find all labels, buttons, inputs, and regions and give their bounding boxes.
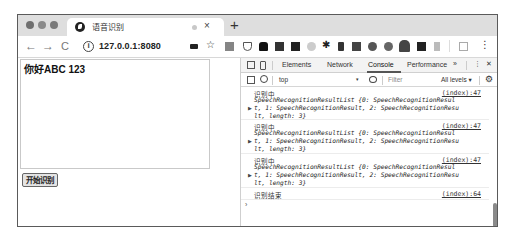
console-log-entry: 识别中 (index):47 SpeechRecognitionResultLi… <box>241 121 489 154</box>
extension-10-icon[interactable] <box>399 40 410 52</box>
minimize-window-button[interactable] <box>38 21 46 29</box>
back-button[interactable]: ← <box>25 39 37 53</box>
tab-recording-indicator-icon <box>192 25 197 30</box>
filter-divider <box>272 76 273 85</box>
browser-tab[interactable]: 语音识别 × <box>67 18 224 37</box>
tab-elements[interactable]: Elements <box>282 61 311 68</box>
log-object-line[interactable]: lt, length: 3} <box>254 112 306 120</box>
start-recognition-button[interactable]: 开始识别 <box>22 173 58 187</box>
sidebar-toggle-icon[interactable] <box>247 76 255 84</box>
camera-icon[interactable] <box>190 44 198 49</box>
console-log-entry: 识别中 (index):47 SpeechRecognitionResultLi… <box>241 155 489 188</box>
devtools-close-button[interactable]: ✕ <box>486 60 492 68</box>
star-icon[interactable]: ☆ <box>206 39 215 50</box>
log-object-line[interactable]: lt, length: 3} <box>254 179 306 187</box>
more-tabs-button[interactable]: » <box>453 60 457 67</box>
extension-9-icon[interactable] <box>384 42 393 51</box>
toolbar-divider <box>449 40 450 52</box>
extension-6-icon[interactable] <box>338 42 344 51</box>
tabbar-divider <box>272 61 273 70</box>
extensions-puzzle-icon[interactable] <box>459 42 468 51</box>
qr-icon[interactable] <box>225 42 234 51</box>
tab-performance[interactable]: Performance <box>407 61 447 68</box>
tabbar-divider-2 <box>466 61 467 70</box>
extension-8-icon[interactable] <box>368 42 377 51</box>
filter-input[interactable]: Filter <box>388 76 402 83</box>
console-settings-gear-icon[interactable]: ⚙ <box>485 74 493 84</box>
extension-11-icon[interactable] <box>417 42 426 51</box>
extension-3-icon[interactable] <box>291 42 300 51</box>
devtools-tabbar: Elements Network Console Performance » ⋮… <box>241 58 498 73</box>
site-info-icon[interactable]: i <box>83 41 94 52</box>
globe-icon <box>75 22 85 32</box>
tab-network[interactable]: Network <box>327 61 353 68</box>
extension-2-icon[interactable] <box>275 42 284 51</box>
tab-close-button[interactable]: × <box>204 20 210 31</box>
menu-kebab-icon[interactable]: ⋮ <box>480 39 490 50</box>
close-window-button[interactable] <box>26 21 34 29</box>
log-object-line[interactable]: lt, length: 3} <box>254 145 306 153</box>
console-scrollbar[interactable] <box>493 203 497 227</box>
page-content: 你好ABC 123 开始识别 <box>18 58 240 227</box>
tab-title: 语音识别 <box>92 21 124 32</box>
console-filter-bar: top ▾ Filter All levels ▾ ⚙ <box>241 73 498 87</box>
extension-1-icon[interactable] <box>259 42 268 51</box>
extension-7-icon[interactable] <box>352 42 361 51</box>
tab-console[interactable]: Console <box>368 61 394 68</box>
console-log-entry: 识别结束 (index):64 <box>241 189 489 200</box>
inspect-element-icon[interactable] <box>247 61 255 69</box>
expand-triangle-icon[interactable]: ▶ <box>248 105 252 111</box>
devtools-menu-button[interactable]: ⋮ <box>474 60 481 68</box>
filter-divider-3 <box>479 76 480 85</box>
reload-button[interactable]: C <box>61 40 69 52</box>
url-text[interactable]: 127.0.0.1:8080 <box>99 41 161 51</box>
result-textarea[interactable]: 你好ABC 123 <box>20 59 210 169</box>
new-tab-button[interactable]: + <box>230 17 239 32</box>
context-selector[interactable]: top <box>279 76 288 83</box>
devtools-panel: Elements Network Console Performance » ⋮… <box>240 58 498 227</box>
log-levels-dropdown[interactable]: All levels ▾ <box>441 76 472 84</box>
maximize-window-button[interactable] <box>50 21 58 29</box>
log-source-link[interactable]: (index):64 <box>442 190 481 198</box>
live-expression-eye-icon[interactable] <box>369 76 377 83</box>
pocket-icon[interactable] <box>243 42 252 51</box>
expand-triangle-icon[interactable]: ▶ <box>248 138 252 144</box>
extension-5-icon[interactable]: ✱ <box>322 39 330 50</box>
extension-12-icon[interactable] <box>434 42 440 51</box>
clear-console-icon[interactable] <box>260 75 268 83</box>
console-output: 识别中 (index):47 SpeechRecognitionResultLi… <box>241 88 498 227</box>
tab-strip: 语音识别 × + <box>18 15 497 36</box>
browser-toolbar: ← → C i 127.0.0.1:8080 ☆ ✱ ⋮ <box>18 36 497 58</box>
expand-triangle-icon[interactable]: ▶ <box>248 172 252 178</box>
context-dropdown-icon[interactable]: ▾ <box>356 76 359 82</box>
console-prompt[interactable]: › <box>245 201 247 208</box>
log-message: 识别结束 <box>254 190 282 200</box>
device-toolbar-icon[interactable] <box>260 61 266 70</box>
filter-divider-2 <box>382 76 383 85</box>
extension-4-icon[interactable] <box>307 42 316 51</box>
browser-window: 语音识别 × + ← → C i 127.0.0.1:8080 ☆ ✱ ⋮ <box>17 14 498 227</box>
console-log-entry: 识别中 (index):47 SpeechRecognitionResultLi… <box>241 88 489 120</box>
forward-button[interactable]: → <box>42 39 54 53</box>
